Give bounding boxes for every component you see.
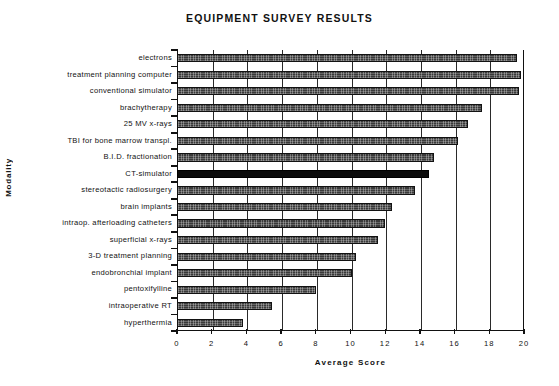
bar-9: [177, 203, 392, 211]
y-tick-mark-5: [171, 148, 178, 150]
x-tick-mark-4: [246, 329, 247, 334]
x-tick-label-18: 18: [484, 339, 495, 348]
y-tick-label-8: stereotactic radiosurgery: [0, 185, 172, 194]
bar-1: [177, 71, 521, 79]
y-tick-mark-10: [171, 231, 178, 233]
x-axis-title: Average Score: [177, 358, 524, 367]
bar-10: [177, 219, 385, 227]
bar-5: [177, 137, 458, 145]
x-tick-label-6: 6: [278, 339, 283, 348]
y-tick-mark-11: [171, 248, 178, 250]
x-tick-mark-6: [280, 329, 281, 334]
bar-3: [177, 104, 482, 112]
bar-16: [177, 319, 243, 327]
x-tick-label-4: 4: [244, 339, 249, 348]
y-tick-label-0: electrons: [0, 53, 172, 62]
bar-7: [177, 170, 429, 178]
x-tick-label-0: 0: [174, 339, 179, 348]
equipment-survey-chart: EQUIPMENT SURVEY RESULTS Modality Averag…: [0, 0, 559, 386]
y-tick-label-13: endobronchial implant: [0, 268, 172, 277]
y-tick-label-14: pentoxifylline: [0, 284, 172, 293]
y-tick-mark-1: [171, 82, 178, 84]
x-tick-mark-14: [419, 329, 420, 334]
y-tick-label-15: intraoperative RT: [0, 301, 172, 310]
x-tick-label-16: 16: [449, 339, 460, 348]
y-tick-mark-15: [171, 314, 178, 316]
y-tick-mark-8: [171, 198, 178, 200]
y-tick-label-1: treatment planning computer: [0, 70, 172, 79]
x-tick-label-20: 20: [519, 339, 530, 348]
y-tick-label-5: TBI for bone marrow transpl.: [0, 136, 172, 145]
bar-4: [177, 120, 468, 128]
y-tick-mark-0: [171, 66, 178, 68]
chart-title: EQUIPMENT SURVEY RESULTS: [0, 12, 559, 24]
y-tick-mark-16: [171, 330, 178, 332]
bar-0: [177, 54, 517, 62]
bar-6: [177, 153, 434, 161]
x-tick-mark-10: [350, 329, 351, 334]
y-tick-mark-top: [171, 49, 178, 51]
y-tick-label-9: brain implants: [0, 202, 172, 211]
y-tick-mark-2: [171, 99, 178, 101]
y-tick-label-12: 3-D treatment planning: [0, 251, 172, 260]
y-tick-label-7: CT-simulator: [0, 169, 172, 178]
x-tick-label-2: 2: [209, 339, 214, 348]
x-tick-label-10: 10: [345, 339, 356, 348]
y-tick-mark-6: [171, 165, 178, 167]
bar-11: [177, 236, 378, 244]
x-tick-mark-16: [454, 329, 455, 334]
x-tick-label-14: 14: [415, 339, 426, 348]
y-tick-mark-9: [171, 214, 178, 216]
x-tick-mark-2: [211, 329, 212, 334]
x-tick-label-8: 8: [313, 339, 318, 348]
x-tick-mark-18: [489, 329, 490, 334]
bar-13: [177, 269, 352, 277]
y-tick-label-2: conventional simulator: [0, 86, 172, 95]
bar-15: [177, 302, 272, 310]
y-tick-mark-12: [171, 264, 178, 266]
bar-14: [177, 286, 316, 294]
y-tick-mark-14: [171, 297, 178, 299]
y-tick-mark-13: [171, 281, 178, 283]
x-tick-mark-20: [523, 329, 524, 334]
y-tick-label-6: B.I.D. fractionation: [0, 152, 172, 161]
bar-8: [177, 186, 415, 194]
y-tick-label-4: 25 MV x-rays: [0, 119, 172, 128]
y-tick-label-3: brachytherapy: [0, 103, 172, 112]
y-tick-mark-3: [171, 115, 178, 117]
x-tick-label-12: 12: [380, 339, 391, 348]
bar-12: [177, 253, 356, 261]
y-tick-mark-7: [171, 181, 178, 183]
y-tick-label-16: hyperthermia: [0, 318, 172, 327]
y-tick-label-11: superficial x-rays: [0, 235, 172, 244]
y-tick-mark-4: [171, 132, 178, 134]
y-tick-label-10: intraop. afterloading catheters: [0, 218, 172, 227]
x-tick-mark-12: [385, 329, 386, 334]
x-tick-mark-8: [315, 329, 316, 334]
bar-2: [177, 87, 519, 95]
